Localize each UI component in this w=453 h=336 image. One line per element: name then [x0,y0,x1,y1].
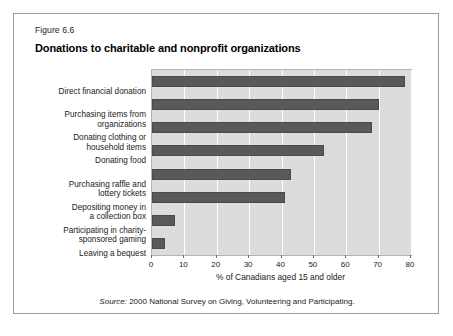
bar [152,169,291,180]
source-note: Source: 2000 National Survey on Giving, … [14,297,440,306]
source-keyword: Source: [99,297,127,306]
x-tick-label: 10 [179,260,188,269]
source-text: 2000 National Survey on Giving, Voluntee… [127,297,355,306]
bar [152,215,175,226]
category-label: Purchasing raffle and lottery tickets [0,180,146,199]
bar-row: Participating in charity- sponsored gami… [152,215,175,226]
x-tick-mark [313,255,314,258]
bar-row: Purchasing items from organizations [152,99,379,110]
bar-row: Depositing money in a collection box [152,192,285,203]
bar-row: Leaving a bequest [152,238,165,249]
x-tick-label: 60 [341,260,350,269]
x-tick-mark [151,255,152,258]
bar [152,238,165,249]
x-tick-mark [410,255,411,258]
category-label: Purchasing items from organizations [0,110,146,129]
category-label: Leaving a bequest [0,249,146,259]
bar [152,122,372,133]
bars-layer: Direct financial donationPurchasing item… [152,70,411,255]
bar-row: Donating food [152,145,324,156]
bar [152,76,405,87]
x-tick-label: 30 [244,260,253,269]
x-tick-label: 50 [308,260,317,269]
category-label: Participating in charity- sponsored gami… [0,226,146,245]
x-tick-label: 0 [149,260,153,269]
x-tick-mark [345,255,346,258]
bar-chart: Direct financial donationPurchasing item… [14,14,440,315]
category-label: Donating clothing or household items [0,133,146,152]
x-tick-mark [248,255,249,258]
category-label: Donating food [0,156,146,166]
plot-area: Direct financial donationPurchasing item… [151,69,412,256]
figure-frame: Figure 6.6 Donations to charitable and n… [13,13,439,314]
bar-row: Direct financial donation [152,76,405,87]
bar-row: Purchasing raffle and lottery tickets [152,169,291,180]
bar [152,145,324,156]
x-axis-label: % of Canadians aged 15 and older [151,272,410,282]
bar [152,99,379,110]
x-tick-label: 20 [211,260,220,269]
gridline [411,70,412,255]
x-tick-label: 40 [276,260,285,269]
category-label: Depositing money in a collection box [0,203,146,222]
x-tick-mark [281,255,282,258]
x-tick-mark [216,255,217,258]
bar [152,192,285,203]
x-tick-label: 70 [373,260,382,269]
x-tick-mark [378,255,379,258]
x-tick-label: 80 [406,260,415,269]
category-label: Direct financial donation [0,87,146,97]
bar-row: Donating clothing or household items [152,122,372,133]
x-tick-mark [183,255,184,258]
